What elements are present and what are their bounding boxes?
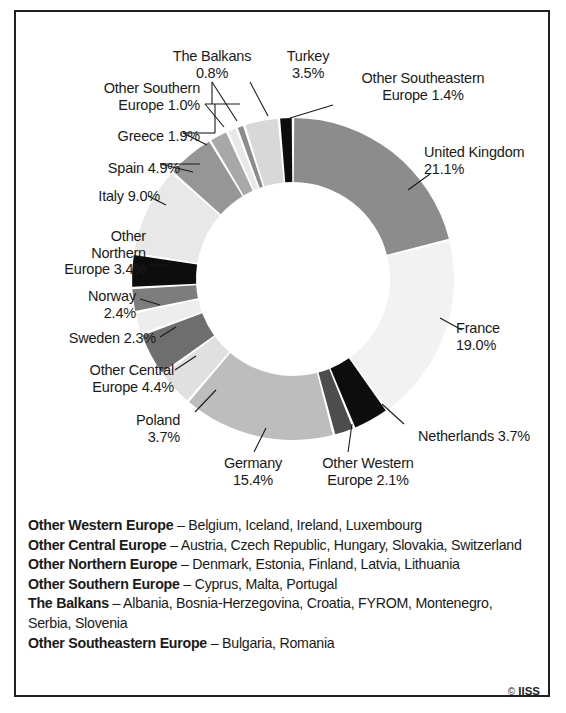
footnote-dash: – [180, 576, 195, 592]
callout-greece: Greece 1.9% [30, 128, 200, 145]
footnote-term: Other Southern Europe [28, 576, 180, 592]
donut-slices-group: United Kingdom 21.1%France 19.0%Netherla… [132, 118, 454, 440]
callout-other-northern-europe: Other Northern Europe 3.4% [14, 228, 146, 278]
callout-netherlands: Netherlands 3.7% [418, 428, 566, 445]
callout-spain: Spain 4.9% [30, 160, 180, 177]
footnote-countries: Austria, Czech Republic, Hungary, Slovak… [181, 537, 522, 553]
footnote-item: Other Northern Europe – Denmark, Estonia… [28, 555, 536, 575]
callout-other-southeastern-europe: Other Southeastern Europe 1.4% [333, 70, 513, 103]
callout-italy: Italy 9.0% [20, 188, 160, 205]
donut-chart-area: United Kingdom 21.1%France 19.0%Netherla… [0, 0, 566, 510]
leader-line [212, 82, 237, 121]
callout-france: France 19.0% [456, 320, 556, 353]
callout-sweden: Sweden 2.3% [14, 330, 156, 347]
footnote-dash: – [109, 595, 123, 611]
leader-line [382, 404, 404, 424]
footnote-term: The Balkans [28, 595, 109, 611]
footnote-term: Other Western Europe [28, 517, 173, 533]
callout-norway: Norway 2.4% [14, 288, 136, 321]
footnote-countries: Denmark, Estonia, Finland, Latvia, Lithu… [192, 556, 459, 572]
footnote-item: Other Southern Europe – Cyprus, Malta, P… [28, 575, 536, 595]
callout-germany: Germany 15.4% [198, 455, 308, 488]
callout-other-western-europe: Other Western Europe 2.1% [300, 455, 436, 488]
leader-line [290, 105, 333, 118]
iiss-credit: © IISS [508, 685, 540, 697]
callout-united-kingdom: United Kingdom 21.1% [424, 144, 564, 177]
footnote-item: Other Southeastern Europe – Bulgaria, Ro… [28, 634, 536, 654]
chart-page: United Kingdom 21.1%France 19.0%Netherla… [0, 0, 566, 713]
footnote-countries: Bulgaria, Romania [222, 635, 334, 651]
callout-poland: Poland 3.7% [60, 412, 180, 445]
footnote-term: Other Central Europe [28, 537, 166, 553]
footnote-dash: – [166, 537, 180, 553]
footnote-dash: – [177, 556, 192, 572]
copyright-icon: © [508, 686, 515, 697]
callout-other-southern-europe: Other Southern Europe 1.0% [30, 80, 200, 113]
callout-other-central-europe: Other Central Europe 4.4% [14, 362, 174, 395]
footnote-item: Other Central Europe – Austria, Czech Re… [28, 536, 536, 556]
footnote-countries: Belgium, Iceland, Ireland, Luxembourg [188, 517, 422, 533]
callout-the-balkans: The Balkans 0.8% [142, 48, 282, 81]
footnote-dash: – [207, 635, 222, 651]
footnote-term: Other Southeastern Europe [28, 635, 207, 651]
footnote-item: The Balkans – Albania, Bosnia-Herzegovin… [28, 594, 536, 633]
leader-line [250, 82, 268, 116]
footnote-list: Other Western Europe – Belgium, Iceland,… [28, 516, 536, 653]
credit-text: IISS [518, 685, 540, 697]
footnote-item: Other Western Europe – Belgium, Iceland,… [28, 516, 536, 536]
footnote-dash: – [173, 517, 188, 533]
footnote-term: Other Northern Europe [28, 556, 177, 572]
donut-slice[interactable]: United Kingdom 21.1% [294, 118, 449, 255]
footnote-countries: Cyprus, Malta, Portugal [195, 576, 338, 592]
